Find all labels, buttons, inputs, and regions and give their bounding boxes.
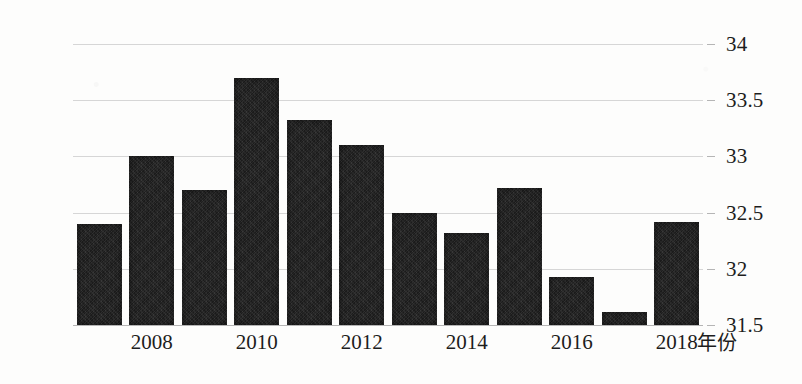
bar — [234, 78, 279, 325]
x-axis-tick-label: 2012 — [341, 332, 383, 353]
bar — [129, 156, 174, 325]
bar-chart-figure: 3433.53332.53231.5 200820102012201420162… — [0, 0, 802, 384]
x-axis-tick-label: 2018 — [656, 332, 698, 353]
bar — [497, 188, 542, 325]
y-axis-tick-mark — [707, 325, 715, 326]
y-axis-tick-label: 32 — [726, 259, 747, 280]
y-axis-tick-label: 32.5 — [726, 203, 764, 224]
bar — [549, 277, 594, 325]
axis-baseline — [73, 325, 703, 326]
x-axis-tick-label: 2014 — [446, 332, 488, 353]
x-axis-title: 年份 — [697, 333, 737, 353]
y-axis-tick-label: 34 — [726, 34, 747, 55]
y-axis-tick-label: 33.5 — [726, 90, 764, 111]
bar — [602, 312, 647, 325]
x-axis-tick-label: 2010 — [236, 332, 278, 353]
gridline — [73, 44, 703, 45]
bar — [77, 224, 122, 325]
y-axis-tick-mark — [707, 269, 715, 270]
y-axis-tick-mark — [707, 213, 715, 214]
plot-area — [73, 44, 703, 325]
y-axis-tick-label: 33 — [726, 146, 747, 167]
y-axis-tick-mark — [707, 156, 715, 157]
bar — [182, 190, 227, 325]
y-axis-tick-mark — [707, 44, 715, 45]
bar — [654, 222, 699, 325]
bar — [392, 213, 437, 325]
x-axis-tick-label: 2008 — [131, 332, 173, 353]
x-axis-tick-label: 2016 — [551, 332, 593, 353]
bar — [339, 145, 384, 325]
y-axis-tick-mark — [707, 100, 715, 101]
gridline — [73, 100, 703, 101]
bar — [444, 233, 489, 325]
bar — [287, 120, 332, 325]
